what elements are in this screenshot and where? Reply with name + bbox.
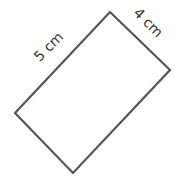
rotated-rectangle — [15, 12, 170, 173]
long-side-label: 5 cm — [31, 29, 67, 65]
rectangle-diagram: 5 cm 4 cm — [0, 0, 175, 177]
short-side-label: 4 cm — [131, 5, 167, 41]
